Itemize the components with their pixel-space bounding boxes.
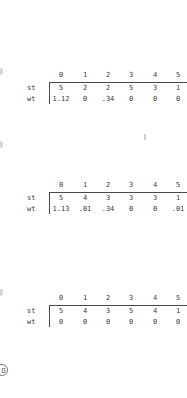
column-header: 4 (144, 294, 166, 303)
table-cell: 0 (74, 95, 96, 104)
column-header: 3 (120, 71, 142, 80)
column-header: 4 (144, 71, 166, 80)
state-weight-table-2: 0 1 2 3 4 5 st 5 4 3 3 3 1 wt 1.13 .01 .… (0, 181, 187, 217)
table-cell: 3 (120, 194, 142, 203)
table-cell: 2 (74, 84, 96, 93)
table-cell: 5 (120, 84, 142, 93)
table-cell: .01 (74, 205, 96, 214)
column-header: 0 (50, 71, 72, 80)
table-cell: 0 (120, 95, 142, 104)
table-cell: 0 (120, 318, 142, 327)
table-cell: 0 (144, 318, 166, 327)
table-cell: 1 (167, 307, 187, 316)
table-cell: 3 (97, 307, 119, 316)
table-cell: 4 (144, 307, 166, 316)
row-label-wt: wt (27, 95, 41, 104)
column-header: 3 (120, 294, 142, 303)
table-cell: 2 (97, 84, 119, 93)
table-cell: 0 (167, 318, 187, 327)
table-cell: 3 (144, 84, 166, 93)
state-weight-table-3: 0 1 2 3 4 5 st 5 4 3 5 4 1 wt 0 0 0 0 0 … (0, 294, 187, 330)
table-cell: 4 (74, 307, 96, 316)
row-label-st: st (27, 84, 41, 93)
table-cell: 0 (144, 205, 166, 214)
margin-mark (0, 141, 3, 148)
column-header: 1 (74, 294, 96, 303)
row-label-st: st (27, 307, 41, 316)
table-cell: .34 (97, 95, 119, 104)
circled-zero-marker: 0 (0, 364, 8, 376)
column-header: 0 (50, 294, 72, 303)
table-cell: 5 (50, 84, 72, 93)
table-cell: .01 (167, 205, 187, 214)
column-header: 5 (167, 294, 187, 303)
row-label-wt: wt (27, 318, 41, 327)
column-header: 2 (97, 181, 119, 190)
stray-mark (144, 134, 146, 140)
column-header: 4 (144, 181, 166, 190)
column-header: 0 (50, 181, 72, 190)
row-label-st: st (27, 194, 41, 203)
table-cell: 0 (120, 205, 142, 214)
table-cell: 0 (50, 318, 72, 327)
table-cell: 5 (50, 307, 72, 316)
header-divider (49, 305, 187, 306)
table-cell: 0 (97, 318, 119, 327)
column-header: 2 (97, 71, 119, 80)
column-header: 1 (74, 71, 96, 80)
table-cell: 1 (167, 84, 187, 93)
table-cell: 3 (97, 194, 119, 203)
column-header: 3 (120, 181, 142, 190)
column-header: 1 (74, 181, 96, 190)
table-cell: 4 (74, 194, 96, 203)
row-label-wt: wt (27, 205, 41, 214)
state-weight-table-1: 0 1 2 3 4 5 st 5 2 2 5 3 1 wt 1.12 0 .34… (0, 71, 187, 107)
table-cell: 5 (120, 307, 142, 316)
table-cell: 0 (144, 95, 166, 104)
table-cell: 0 (167, 95, 187, 104)
column-header: 5 (167, 181, 187, 190)
header-divider (49, 192, 187, 193)
table-cell: 0 (74, 318, 96, 327)
column-header: 5 (167, 71, 187, 80)
header-divider (49, 82, 187, 83)
table-cell: 5 (50, 194, 72, 203)
table-cell: 3 (144, 194, 166, 203)
column-header: 2 (97, 294, 119, 303)
table-cell: .34 (97, 205, 119, 214)
table-cell: 1.12 (50, 95, 72, 104)
table-cell: 1.13 (50, 205, 72, 214)
table-cell: 1 (167, 194, 187, 203)
